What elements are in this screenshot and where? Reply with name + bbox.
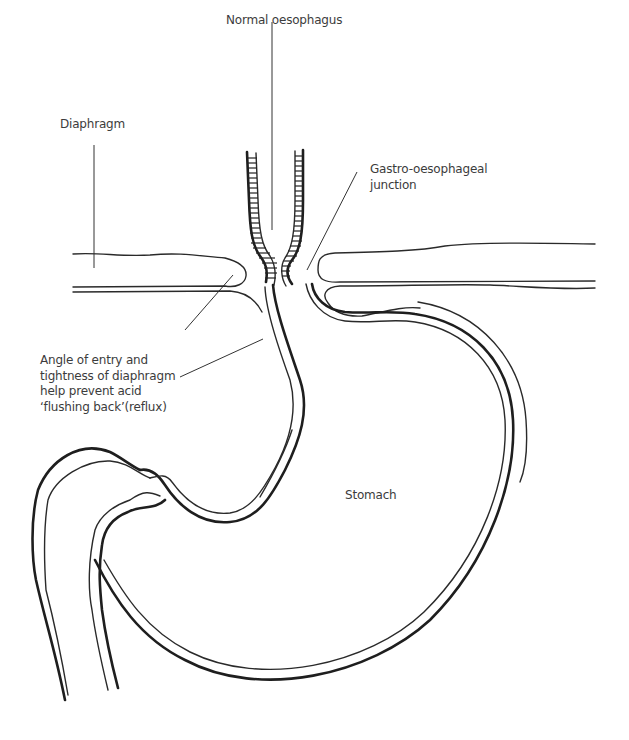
diaphragm-right: [318, 243, 595, 316]
label-normal-oesophagus: Normal oesophagus: [226, 13, 342, 29]
label-diaphragm: Diaphragm: [60, 117, 125, 133]
ge-junction-leader-line: [307, 172, 357, 270]
stomach: [33, 284, 527, 700]
diaphragm-left: [73, 254, 262, 312]
label-angle-of-entry-note: Angle of entry and tightness of diaphrag…: [40, 353, 175, 415]
anatomy-diagram: Normal oesophagus Diaphragm Gastro-oesop…: [0, 0, 629, 740]
label-gastro-oesophageal-junction: Gastro-oesophageal junction: [370, 162, 487, 193]
label-stomach: Stomach: [345, 488, 397, 504]
angle-leader-line-1: [185, 275, 233, 330]
leader-lines: [94, 22, 357, 377]
angle-leader-line-2: [180, 339, 263, 377]
oesophagus: [247, 150, 303, 286]
